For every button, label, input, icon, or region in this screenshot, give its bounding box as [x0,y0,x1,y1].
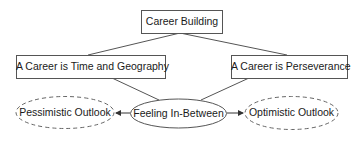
node-pessimistic-label: Pessimistic Outlook [16,107,114,118]
edge-right-center [201,78,249,100]
node-right-label: A Career is Perseverance [231,61,348,72]
node-root-label: Career Building [141,16,223,27]
edge-root-left [88,33,180,55]
node-center-label: Feeling In-Between [130,108,227,119]
edge-left-center [112,78,159,100]
node-optimistic-label: Optimistic Outlook [245,107,338,118]
edge-root-right [180,33,287,55]
node-left-label: A Career is Time and Geography [16,61,166,72]
